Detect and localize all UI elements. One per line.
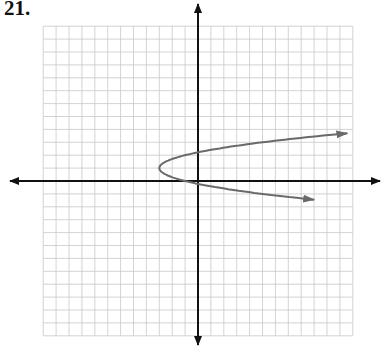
parabola-curve [159,133,347,199]
coordinate-graph [0,0,390,349]
parabola-upper-branch [159,133,347,168]
axes [10,4,380,345]
